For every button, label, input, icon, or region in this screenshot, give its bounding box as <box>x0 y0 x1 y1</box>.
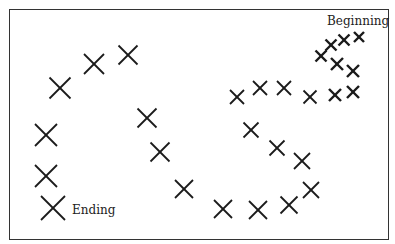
x-mark-icon <box>354 32 364 42</box>
x-mark-icon <box>329 89 341 101</box>
ending-label: Ending <box>72 203 115 217</box>
x-mark-icon <box>50 78 71 99</box>
x-mark-icon <box>316 51 327 62</box>
x-mark-icon <box>35 165 57 187</box>
x-mark-icon <box>331 58 343 70</box>
x-mark-icon <box>339 35 350 46</box>
x-mark-icon <box>270 141 285 156</box>
x-mark-icon <box>230 90 244 104</box>
x-mark-icon <box>304 91 317 104</box>
beginning-label: Beginning <box>327 14 389 28</box>
x-mark-icon <box>253 81 267 95</box>
x-mark-icon <box>175 180 193 198</box>
x-mark-icon <box>119 46 138 65</box>
x-mark-icon <box>84 54 104 74</box>
x-mark-icon <box>347 65 359 77</box>
x-mark-icon <box>151 143 170 162</box>
x-mark-icon <box>303 182 319 198</box>
x-mark-icon <box>244 123 259 138</box>
x-mark-icon <box>214 200 232 218</box>
x-mark-icon <box>249 201 267 219</box>
x-mark-icon <box>35 124 57 146</box>
x-mark-icon <box>281 197 298 214</box>
x-mark-icon <box>138 109 157 128</box>
x-mark-icon <box>294 153 310 169</box>
x-mark-icon <box>41 196 65 220</box>
x-marks-path <box>0 0 395 244</box>
x-mark-icon <box>326 40 337 51</box>
x-mark-icon <box>347 86 359 98</box>
x-mark-icon <box>277 81 291 95</box>
